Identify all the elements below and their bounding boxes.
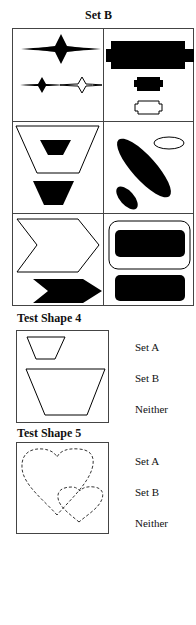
small-white-notched-rect-icon — [135, 101, 162, 114]
small-white-ellipse-icon — [154, 137, 184, 149]
small-black-ellipse-icon — [112, 183, 141, 213]
small-white-trapezoid-icon — [27, 337, 65, 359]
black-chevron-icon — [33, 279, 102, 303]
test-shape-4-box — [16, 330, 109, 423]
black-rounded-rect-icon — [115, 275, 185, 301]
cell-stars — [13, 29, 103, 121]
cell-ellipses — [104, 123, 194, 213]
test-4-option-set-b[interactable]: Set B — [135, 372, 159, 384]
cell-rounded-rectangles — [104, 215, 194, 305]
test-5-option-set-b[interactable]: Set B — [135, 486, 159, 498]
cell-trapezoids — [13, 123, 103, 213]
large-dashed-heart-icon — [22, 449, 93, 515]
small-white-star-icon — [60, 77, 102, 93]
cell-chevrons — [13, 215, 103, 305]
test-shape-5-title: Test Shape 5 — [17, 426, 81, 441]
small-dashed-heart-icon — [58, 487, 103, 522]
test-5-option-neither[interactable]: Neither — [135, 517, 168, 529]
small-black-notched-rect-icon — [134, 77, 163, 91]
test-shape-4-title: Test Shape 4 — [17, 311, 81, 326]
test-4-option-set-a[interactable]: Set A — [135, 341, 159, 353]
test-4-option-neither[interactable]: Neither — [135, 403, 168, 415]
large-black-star-icon — [21, 34, 101, 64]
test-shape-5-box — [16, 442, 109, 534]
large-black-notched-rect-icon — [106, 41, 194, 69]
test-5-option-set-a[interactable]: Set A — [135, 455, 159, 467]
large-white-chevron-icon — [17, 219, 99, 272]
small-black-star-icon — [20, 77, 63, 93]
inner-black-rounded-rect-icon — [115, 230, 185, 257]
cell-notched-rectangles — [104, 29, 194, 121]
medium-black-trapezoid-icon — [33, 181, 74, 205]
set-b-title: Set B — [85, 8, 112, 23]
large-white-trapezoid-icon — [26, 369, 105, 415]
